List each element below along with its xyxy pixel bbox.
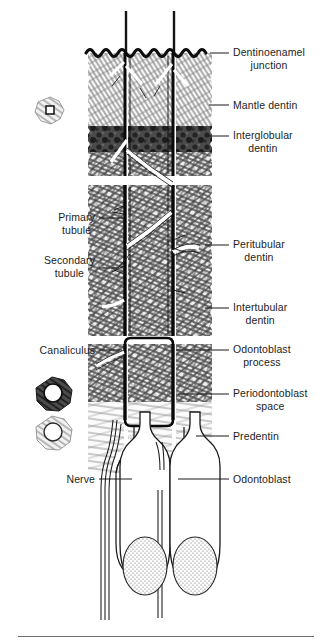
label-canaliculus: Canaliculus (40, 344, 95, 357)
label-primary-tubule: Primary tubule (58, 211, 95, 236)
label-line1: Dentinoenamel (233, 46, 305, 58)
label-line1: Nerve (66, 473, 95, 485)
label-periodontoblast-space: Periodontoblast space (233, 387, 307, 412)
dentin-histology-figure: Dentinoenamel junction Mantle dentin Int… (0, 0, 332, 643)
label-line1: Odontoblast (233, 473, 291, 485)
figure-footer-rule (18, 636, 314, 637)
label-line1: Interglobular (233, 129, 293, 141)
label-odontoblast-process: Odontoblast process (233, 343, 291, 368)
label-nerve: Nerve (66, 473, 95, 486)
label-interglobular-dentin: Interglobular dentin (233, 129, 293, 154)
label-line1: Mantle dentin (233, 99, 297, 111)
label-line1: Canaliculus (40, 344, 95, 356)
label-intertubular-dentin: Intertubular dentin (233, 301, 287, 326)
label-line1: Odontoblast (233, 343, 291, 355)
label-line2: tubule (58, 224, 95, 237)
label-line1: Predentin (233, 430, 279, 442)
label-line2: dentin (233, 251, 285, 264)
label-line2: dentin (233, 314, 287, 327)
label-line1: Primary (58, 211, 95, 223)
label-dentinoenamel-junction: Dentinoenamel junction (233, 46, 305, 71)
dentin-column-right (174, 53, 214, 473)
label-mantle-dentin: Mantle dentin (233, 99, 297, 112)
dentin-column-middle (126, 53, 174, 473)
tubule-stems-above-dej (126, 11, 174, 53)
label-line1: Intertubular (233, 301, 287, 313)
inset-tubule-cross-section-dark (36, 377, 72, 411)
inset-tubule-cross-section-top (35, 97, 64, 124)
label-line2: process (233, 356, 291, 369)
label-line2: tubule (44, 267, 95, 280)
inset-tubule-cross-section-light (36, 416, 72, 450)
label-line1: Peritubular (233, 238, 285, 250)
label-secondary-tubule: Secondary tubule (44, 254, 95, 279)
label-predentin: Predentin (233, 430, 279, 443)
label-odontoblast: Odontoblast (233, 473, 291, 486)
label-line2: dentin (233, 142, 293, 155)
label-peritubular-dentin: Peritubular dentin (233, 238, 285, 263)
label-line2: junction (233, 59, 305, 72)
label-line1: Periodontoblast (233, 387, 307, 399)
label-line2: space (233, 400, 307, 413)
label-line1: Secondary (44, 254, 95, 266)
